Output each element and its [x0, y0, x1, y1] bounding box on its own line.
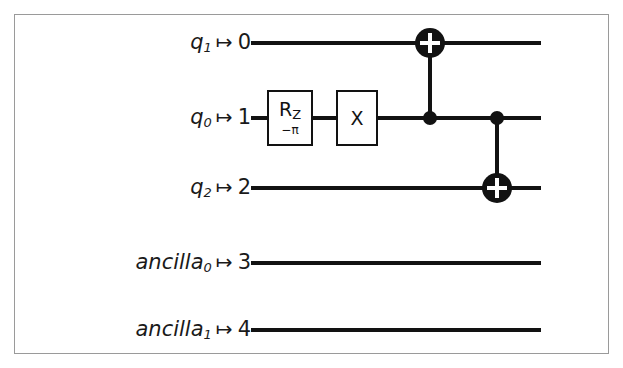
rz-gate: RZ−π [267, 90, 313, 146]
wire-label-base: q [190, 175, 203, 199]
rz-gate-label: RZ [279, 100, 301, 121]
wire-label-index: 3 [238, 250, 251, 274]
x-gate: X [336, 90, 378, 146]
wire-label-ancilla0: ancilla0↦3 [135, 252, 251, 275]
rz-gate-axis-subscript: Z [292, 107, 301, 122]
x-gate-symbol: X [350, 107, 363, 129]
wire-label-base: ancilla [135, 250, 203, 274]
cnot-2-control-dot [490, 111, 504, 125]
wire-label-base: ancilla [135, 317, 203, 341]
wire-label-q1: q1↦0 [190, 32, 251, 55]
wire-label-index: 1 [238, 105, 251, 129]
maps-to-arrow-icon: ↦ [212, 105, 238, 129]
wire-label-index: 0 [238, 30, 251, 54]
wire-label-base: q [190, 105, 203, 129]
maps-to-arrow-icon: ↦ [212, 317, 238, 341]
maps-to-arrow-icon: ↦ [212, 30, 238, 54]
wire-label-ancilla1: ancilla1↦4 [135, 319, 251, 342]
cnot-links-group [430, 43, 497, 188]
wire-label-q2: q2↦2 [190, 177, 251, 200]
quantum-circuit-canvas [0, 0, 623, 368]
rz-gate-symbol: R [279, 98, 292, 120]
maps-to-arrow-icon: ↦ [212, 250, 238, 274]
wire-label-index: 4 [238, 317, 251, 341]
cnot-1-control-dot [423, 111, 437, 125]
maps-to-arrow-icon: ↦ [212, 175, 238, 199]
wire-label-subscript: 1 [204, 40, 212, 55]
cnot-nodes-group [415, 28, 512, 203]
wire-label-subscript: 0 [204, 115, 212, 130]
wire-label-index: 2 [238, 175, 251, 199]
wire-label-subscript: 2 [204, 185, 212, 200]
x-gate-label: X [350, 109, 363, 128]
wire-label-base: q [190, 30, 203, 54]
wire-label-q0: q0↦1 [190, 107, 251, 130]
rz-gate-parameter: −π [281, 124, 298, 136]
